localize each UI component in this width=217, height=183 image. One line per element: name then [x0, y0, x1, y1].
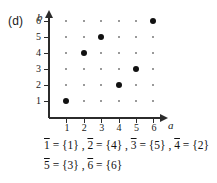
- x-axis-label: a: [168, 119, 174, 131]
- scatter-plot: b a 123456 654321: [0, 0, 217, 135]
- equation-line-2: 5 = {3} , 6 = {6}: [44, 159, 217, 171]
- grid-dot: [83, 20, 85, 22]
- grid-dot: [100, 68, 102, 70]
- grid-dot: [100, 84, 102, 86]
- grid-dot: [100, 20, 102, 22]
- grid-dot: [83, 100, 85, 102]
- grid-dot: [118, 52, 120, 54]
- grid-dot: [65, 20, 67, 22]
- grid-dot: [100, 100, 102, 102]
- x-tick-label: 2: [78, 122, 90, 133]
- equivalence-class-value: = {2}: [180, 139, 209, 151]
- grid-dot: [65, 84, 67, 86]
- grid-dot: [135, 20, 137, 22]
- grid-dot: [65, 36, 67, 38]
- equivalence-class-value: = {4} ,: [93, 139, 131, 151]
- y-tick-mark: [44, 69, 48, 70]
- data-point: [150, 18, 156, 24]
- figure-container: (d) b a 123456 654321 1 = {1} , 2 = {4} …: [0, 0, 217, 183]
- x-tick-label: 4: [113, 122, 125, 133]
- y-axis-line: [48, 17, 50, 118]
- grid-dot: [83, 36, 85, 38]
- data-point: [63, 98, 69, 104]
- equivalence-class-value: = {5} ,: [137, 139, 175, 151]
- data-point: [133, 66, 139, 72]
- y-tick-label: 4: [29, 47, 41, 58]
- grid-dot: [152, 100, 154, 102]
- grid-dot: [118, 36, 120, 38]
- data-point: [116, 82, 122, 88]
- y-tick-label: 6: [29, 15, 41, 26]
- y-tick-mark: [44, 53, 48, 54]
- y-tick-mark: [44, 85, 48, 86]
- grid-dot: [135, 84, 137, 86]
- equivalence-class-value: = {6}: [93, 159, 122, 171]
- grid-dot: [135, 52, 137, 54]
- x-tick-label: 5: [131, 122, 143, 133]
- equation-line-1: 1 = {1} , 2 = {4} , 3 = {5} , 4 = {2}: [44, 139, 217, 151]
- y-tick-label: 3: [29, 63, 41, 74]
- x-axis-arrow-icon: [160, 114, 168, 122]
- x-tick-label: 1: [61, 122, 73, 133]
- grid-dot: [135, 36, 137, 38]
- grid-dot: [118, 20, 120, 22]
- grid-dot: [100, 52, 102, 54]
- grid-dot: [135, 100, 137, 102]
- x-tick-label: 3: [96, 122, 108, 133]
- grid-dot: [152, 84, 154, 86]
- y-tick-label: 5: [29, 31, 41, 42]
- y-axis-arrow-icon: [45, 10, 53, 18]
- grid-dot: [83, 68, 85, 70]
- grid-dot: [152, 68, 154, 70]
- grid-dot: [118, 100, 120, 102]
- equivalence-class-value: = {1} ,: [50, 139, 88, 151]
- grid-dot: [65, 52, 67, 54]
- equivalence-class-value: = {3} ,: [50, 159, 88, 171]
- grid-dot: [118, 68, 120, 70]
- data-point: [98, 34, 104, 40]
- y-tick-mark: [44, 21, 48, 22]
- grid-dot: [65, 68, 67, 70]
- y-tick-mark: [44, 101, 48, 102]
- y-tick-label: 1: [29, 95, 41, 106]
- data-point: [81, 50, 87, 56]
- x-tick-label: 6: [148, 122, 160, 133]
- grid-dot: [152, 36, 154, 38]
- grid-dot: [152, 52, 154, 54]
- grid-dot: [83, 84, 85, 86]
- y-tick-mark: [44, 37, 48, 38]
- y-tick-label: 2: [29, 79, 41, 90]
